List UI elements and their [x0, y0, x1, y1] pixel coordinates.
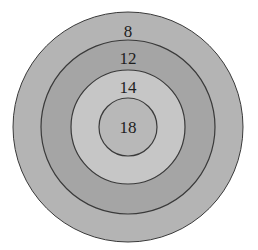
ring-label-bullseye: 18: [120, 118, 137, 137]
target-diagram: 8 12 14 18: [0, 0, 258, 250]
ring-label-third: 14: [120, 78, 138, 97]
ring-label-second: 12: [120, 49, 137, 68]
ring-label-outer: 8: [124, 22, 133, 41]
